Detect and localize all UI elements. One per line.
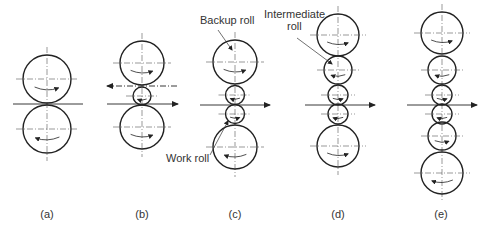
rotation-arrow-icon [327, 42, 348, 45]
panel-e [407, 4, 477, 202]
rotation-arrow-icon [36, 137, 60, 140]
roll-arrangements-drawing [0, 0, 491, 229]
work-roll-leader [210, 121, 228, 155]
rotation-arrow-icon [224, 69, 246, 72]
intermediate-roll-label-line2: roll [287, 20, 302, 32]
panel-d [305, 6, 375, 175]
intermediate-roll-label-line1: Intermediate [264, 8, 325, 20]
rotation-arrow-icon [327, 153, 348, 156]
intermediate-roll-leader [297, 38, 332, 64]
rolling-mill-configurations-diagram: Backup roll Work roll Intermediate roll … [0, 0, 491, 229]
rotation-arrow-icon [131, 134, 153, 137]
caption-c: (c) [229, 208, 242, 220]
caption-b: (b) [135, 208, 148, 220]
caption-a: (a) [40, 208, 53, 220]
caption-e: (e) [434, 208, 447, 220]
panel-c [200, 32, 270, 177]
caption-d: (d) [331, 208, 344, 220]
panel-a [13, 47, 83, 161]
rotation-arrow-icon [432, 180, 453, 183]
rotation-arrow-icon [431, 40, 452, 43]
work-roll-label: Work roll [166, 152, 209, 164]
rotation-arrow-icon [437, 98, 447, 99]
rotation-arrow-icon [225, 154, 247, 157]
rotation-arrow-icon [131, 70, 153, 73]
panel-b [107, 33, 178, 157]
rotation-arrow-icon [35, 87, 59, 90]
backup-roll-label: Backup roll [200, 14, 254, 26]
